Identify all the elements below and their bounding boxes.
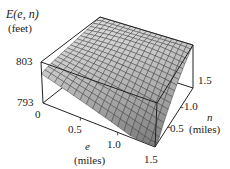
- z-axis-units: (feet): [8, 23, 32, 34]
- n-tick-1.5: 1.5: [198, 75, 212, 86]
- n-axis-title: n: [207, 112, 213, 123]
- e-tick-1.5: 1.5: [144, 154, 158, 165]
- e-tick-0.5: 0.5: [68, 124, 82, 135]
- e-tick-1.0: 1.0: [107, 139, 121, 150]
- e-axis-units: (miles): [74, 155, 105, 166]
- z-axis-title: E(e, n): [6, 8, 39, 20]
- n-tick-0.5: 0.5: [170, 123, 184, 134]
- z-tick-793: 793: [17, 97, 34, 108]
- e-axis-title: e: [85, 141, 90, 152]
- n-axis-units: (miles): [189, 124, 220, 135]
- n-tick-1.0: 1.0: [184, 101, 198, 112]
- box-edge: [41, 62, 43, 103]
- e-tick-0: 0: [35, 109, 41, 120]
- z-tick-803: 803: [16, 56, 33, 67]
